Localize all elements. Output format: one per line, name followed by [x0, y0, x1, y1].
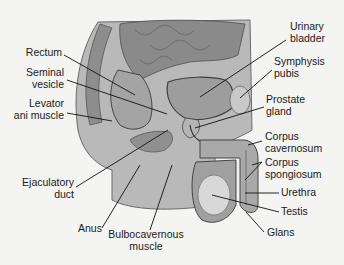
label-seminal-vesicle: Seminal vesicle — [14, 67, 64, 90]
label-text: Ejaculatory — [14, 177, 74, 189]
label-text: bladder — [290, 33, 325, 45]
symphysis-shape — [230, 86, 250, 114]
label-testis: Testis — [281, 206, 308, 218]
label-text: Prostate — [266, 94, 305, 106]
label-text: pubis — [274, 68, 325, 80]
label-corpus-spongiosum: Corpus spongiosum — [265, 157, 322, 180]
label-text: vesicle — [14, 79, 64, 91]
label-text: Symphysis — [274, 56, 325, 68]
label-text: Levator — [4, 98, 64, 110]
label-text: Seminal — [14, 67, 64, 79]
label-text: gland — [266, 106, 305, 118]
label-corpus-cavernosum: Corpus cavernosum — [265, 131, 322, 154]
bladder-shape — [167, 77, 233, 119]
label-text: muscle — [106, 241, 186, 253]
label-text: Urethra — [281, 186, 316, 198]
label-text: cavernosum — [265, 143, 322, 155]
label-text: Rectum — [26, 46, 62, 58]
label-text: ani muscle — [4, 110, 64, 122]
label-rectum: Rectum — [18, 47, 62, 59]
label-urethra: Urethra — [281, 187, 316, 199]
label-ejaculatory-duct: Ejaculatory duct — [14, 177, 74, 200]
label-text: Corpus — [265, 131, 322, 143]
label-anus: Anus — [78, 223, 102, 235]
label-text: Glans — [267, 226, 294, 238]
label-bulbocavernous: Bulbocavernous muscle — [106, 229, 186, 252]
testis-shape — [198, 175, 230, 215]
label-text: Corpus — [265, 157, 322, 169]
label-glans: Glans — [267, 227, 294, 239]
label-text: Anus — [78, 222, 102, 234]
label-text: duct — [14, 189, 74, 201]
label-prostate-gland: Prostate gland — [266, 94, 305, 117]
label-urinary-bladder: Urinary bladder — [290, 21, 325, 44]
label-text: Urinary — [290, 21, 325, 33]
label-text: Testis — [281, 205, 308, 217]
label-levator-ani: Levator ani muscle — [4, 98, 64, 121]
label-symphysis-pubis: Symphysis pubis — [274, 56, 325, 79]
label-text: spongiosum — [265, 169, 322, 181]
label-text: Bulbocavernous — [106, 229, 186, 241]
